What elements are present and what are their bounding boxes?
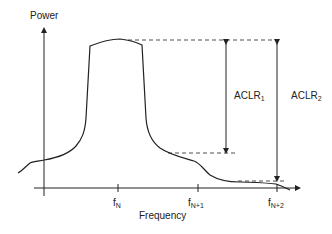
tick-label-fN: fN — [113, 197, 121, 209]
aclr1-label: ACLR1 — [234, 90, 265, 102]
power-spectrum-curve — [18, 39, 290, 190]
tick-label-fN+1: fN+1 — [188, 197, 204, 209]
aclr-diagram: Power Frequency fN fN+1 fN+2 ACLR1 ACLR2 — [0, 0, 332, 234]
y-axis-label: Power — [30, 10, 58, 21]
tick-label-fN+2: fN+2 — [268, 197, 284, 209]
x-axis-label: Frequency — [139, 210, 186, 221]
aclr2-label: ACLR2 — [291, 90, 322, 102]
